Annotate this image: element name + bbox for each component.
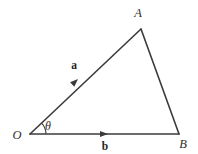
arrowhead-a	[70, 77, 80, 87]
diagram-canvas: O A B θ a b	[0, 0, 198, 154]
angle-label-theta: θ	[45, 119, 51, 133]
arrowhead-b	[100, 131, 108, 137]
vector-label-b: b	[102, 140, 108, 152]
vertex-label-B: B	[179, 137, 187, 151]
vector-label-a: a	[71, 59, 77, 71]
vertex-label-A: A	[133, 6, 142, 20]
edge-AB	[141, 29, 179, 134]
vector-triangle-diagram: O A B θ a b	[0, 0, 198, 154]
vertex-label-O: O	[12, 128, 21, 142]
